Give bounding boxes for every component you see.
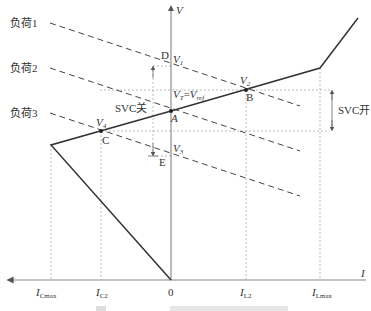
il2-label: IL2 [239,286,252,300]
origin-label: 0 [168,286,174,298]
v-axis-label: V [176,4,184,16]
i-axis-label: I [360,267,366,279]
v3-label: V3 [173,142,184,156]
v2-label: V2 [240,74,251,88]
v4-label: V4 [96,116,107,130]
load-label-2: 负荷2 [10,61,38,74]
point-label-b: B [246,91,253,103]
point-label-a: A [170,112,178,124]
point-label-e: E [159,156,166,168]
caption-clipped-text [170,306,288,311]
load-label-1: 负荷1 [10,16,38,29]
load-label-3: 负荷3 [10,106,38,119]
point-label-c: C [102,134,109,146]
axes [10,8,366,280]
v1-label: V1 [173,53,183,67]
ilmax-label: ILmax [311,286,332,300]
point-label-d: D [161,49,169,61]
icmax-label: ICmax [35,286,57,300]
caption-clipped [96,306,106,311]
svc-vi-characteristic-diagram: 负荷1 负荷2 负荷3 V I D A B C E V1 V2 V3 V4 VT… [0,0,371,311]
load-line-3 [50,113,300,196]
svc-characteristic-curve [51,18,358,280]
svc-on-label: SVC开 [338,104,370,116]
ic2-label: IC2 [95,286,108,300]
svc-off-label: SVC关 [115,101,147,114]
